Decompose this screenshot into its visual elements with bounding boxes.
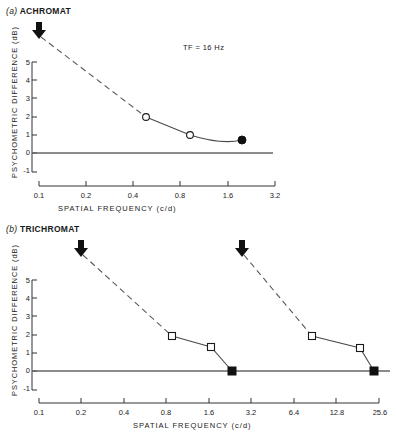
panel-b-data-curve-low [172,336,232,371]
panel-b-dashed-extrapolation-high [244,255,312,336]
panel-b-open-square-marker [169,333,176,340]
panel-b-open-square-marker [208,344,215,351]
panel-b-data-curve-high [312,336,374,371]
panel-a-open-circle-marker [187,132,194,139]
panel-a-arrow-marker [32,22,46,39]
panel-b-filled-square-marker [370,367,378,375]
panel-a-open-circle-marker [143,114,150,121]
panel-a-achromat: (a) ACHROMAT TF = 16 Hz PSYCHOMETRIC DIF… [0,0,396,218]
panel-b-arrow-marker-high [235,240,249,257]
panel-b-open-square-marker [357,345,364,352]
panel-b-dashed-extrapolation-low [83,255,172,336]
panel-b-arrow-marker-low [74,240,88,257]
panel-a-data-curve [146,117,242,142]
panel-b-trichromat: (b) TRICHROMAT PSYCHOMETRIC DIFFERENCE (… [0,218,396,435]
panel-a-plot [0,0,396,218]
panel-a-filled-circle-marker [238,136,246,144]
figure-psychometric-difference: (a) ACHROMAT TF = 16 Hz PSYCHOMETRIC DIF… [0,0,396,435]
panel-b-plot [0,218,396,435]
panel-b-filled-square-marker [228,367,236,375]
panel-a-dashed-extrapolation [41,37,146,117]
panel-b-open-square-marker [309,333,316,340]
